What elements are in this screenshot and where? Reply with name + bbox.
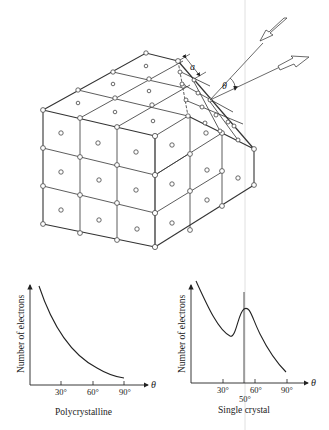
chart1-tick-90: 90° <box>119 387 131 397</box>
chart1-caption: Polycrystalline <box>55 407 112 417</box>
chart2-xlabel: θ <box>311 377 316 388</box>
chart2-tick-60: 60° <box>250 385 262 395</box>
chart2-tick-90: 90° <box>281 385 293 395</box>
incident-beam-arrow-icon <box>260 18 287 41</box>
diffracted-beam-arrow-icon <box>278 56 309 70</box>
chart2-ylabel: Number of electrons <box>177 295 187 373</box>
figure-canvas: a θ Number of electrons θ 30° 60° 90° Po… <box>0 0 329 430</box>
chart1-tick-30: 30° <box>55 387 67 397</box>
single-crystal-curve <box>196 281 286 372</box>
chart2-caption: Single crystal <box>218 405 270 415</box>
chart1-ylabel: Number of electrons <box>16 295 26 373</box>
chart-single-crystal <box>191 281 308 383</box>
angle-label: θ <box>222 80 227 91</box>
chart2-peak-label: 50° <box>239 394 251 404</box>
chart-polycrystalline <box>30 285 148 385</box>
chart1-tick-60: 60° <box>87 387 99 397</box>
chart1-xlabel: θ <box>151 379 156 390</box>
chart2-tick-30: 30° <box>217 385 229 395</box>
polycrystalline-curve <box>39 286 124 378</box>
spacing-label: a <box>190 61 195 72</box>
